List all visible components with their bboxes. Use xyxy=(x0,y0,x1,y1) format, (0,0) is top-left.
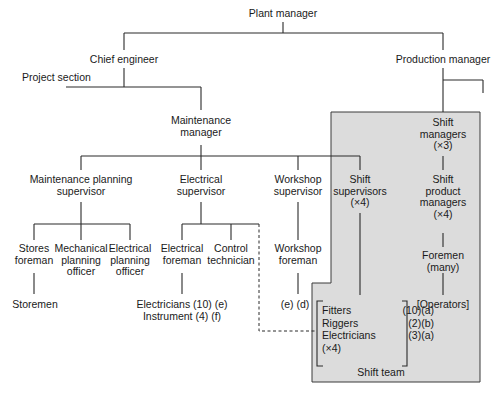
crew-count: (10)(a) xyxy=(402,304,434,317)
node-foremen: Foremen (many) xyxy=(422,250,464,273)
line-2: technician xyxy=(207,255,254,267)
crew-row: Electricians (3)(a) xyxy=(322,329,434,342)
line-1: Maintenance xyxy=(171,115,231,127)
line-3: officer xyxy=(109,266,152,278)
node-plant-manager: Plant manager xyxy=(249,8,317,20)
node-maintenance-planning-supervisor: Maintenance planning supervisor xyxy=(30,174,133,197)
line-2: foreman xyxy=(15,255,54,267)
node-electricians-instrument: Electricians (10) (e) Instrument (4) (f) xyxy=(136,299,227,322)
line-1: Shift xyxy=(420,174,467,186)
line-1: Electrical xyxy=(109,243,152,255)
line-2: foreman xyxy=(274,255,321,267)
crew-multiplier: (×4) xyxy=(322,342,434,355)
crew-row: Fitters (10)(a) xyxy=(322,304,434,317)
line-3: (×4) xyxy=(333,197,387,209)
crew-role: Fitters xyxy=(322,304,351,317)
dashed-link xyxy=(259,224,317,331)
crew-row: Riggers (2)(b) xyxy=(322,317,434,330)
node-electrical-planning-officer: Electrical planning officer xyxy=(109,243,152,278)
line-2: Instrument (4) (f) xyxy=(136,311,227,323)
line-1: Control xyxy=(207,243,254,255)
crew-role: Electricians xyxy=(322,329,376,342)
line-1: Maintenance planning xyxy=(30,174,133,186)
line-1: Electrical xyxy=(177,174,225,186)
line-1: Electrical xyxy=(161,243,204,255)
line-2: manager xyxy=(171,127,231,139)
line-2: supervisor xyxy=(177,186,225,198)
node-electrical-foreman: Electrical foreman xyxy=(161,243,204,266)
node-chief-engineer: Chief engineer xyxy=(90,54,158,66)
line-1: Stores xyxy=(15,243,54,255)
line-2: (many) xyxy=(422,262,464,274)
crew-role: Riggers xyxy=(322,317,358,330)
node-control-technician: Control technician xyxy=(207,243,254,266)
line-1: Foremen xyxy=(422,250,464,262)
line-4: (×4) xyxy=(420,209,467,221)
line-3: managers xyxy=(420,197,467,209)
node-shift-product-managers: Shift product managers (×4) xyxy=(420,174,467,220)
line-2: foreman xyxy=(161,255,204,267)
node-storemen: Storemen xyxy=(12,299,58,311)
node-workshop-supervisor: Workshop supervisor xyxy=(274,174,322,197)
line-1: Shift xyxy=(333,174,387,186)
line-1: Shift xyxy=(420,117,467,129)
shift-crew-list: Fitters (10)(a) Riggers (2)(b) Electrici… xyxy=(322,304,434,354)
line-2: supervisor xyxy=(30,186,133,198)
node-electrical-supervisor: Electrical supervisor xyxy=(177,174,225,197)
node-project-section: Project section xyxy=(22,72,91,84)
node-production-manager: Production manager xyxy=(396,54,491,66)
node-maintenance-manager: Maintenance manager xyxy=(171,115,231,138)
line-2: supervisor xyxy=(274,186,322,198)
org-chart: Plant manager Chief engineer Project sec… xyxy=(0,0,498,395)
node-shift-supervisors: Shift supervisors (×4) xyxy=(333,174,387,209)
node-workshop-staff: (e) (d) xyxy=(281,299,310,311)
crew-count: (2)(b) xyxy=(408,317,434,330)
crew-count: (3)(a) xyxy=(408,329,434,342)
line-1: Electricians (10) (e) xyxy=(136,299,227,311)
line-1: Workshop xyxy=(274,174,322,186)
shift-team-label: Shift team xyxy=(357,367,404,379)
node-stores-foreman: Stores foreman xyxy=(15,243,54,266)
line-1: Mechanical xyxy=(54,243,107,255)
node-workshop-foreman: Workshop foreman xyxy=(274,243,321,266)
line-3: (×3) xyxy=(420,140,467,152)
line-3: officer xyxy=(54,266,107,278)
node-shift-managers: Shift managers (×3) xyxy=(420,117,467,152)
node-mechanical-planning-officer: Mechanical planning officer xyxy=(54,243,107,278)
line-1: Workshop xyxy=(274,243,321,255)
